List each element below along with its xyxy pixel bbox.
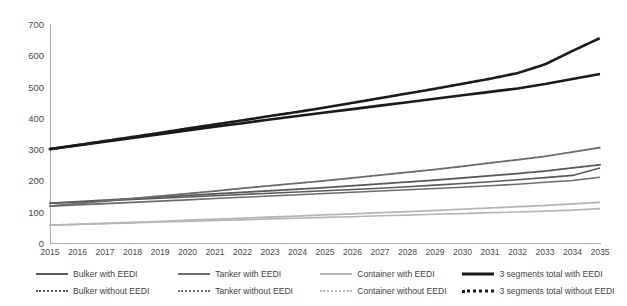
legend-swatch-icon	[178, 269, 210, 279]
x-tick-label: 2019	[150, 247, 169, 257]
legend-item[interactable]: Tanker with EEDI	[178, 266, 320, 281]
y-tick-label: 100	[8, 206, 44, 217]
x-axis-line	[50, 243, 601, 244]
legend-swatch-icon	[36, 269, 68, 279]
legend-item[interactable]: 3 segments total without EEDI	[462, 283, 616, 298]
plot-area	[50, 24, 600, 243]
chart-legend: Bulker with EEDITanker with EEDIContaine…	[36, 266, 616, 302]
legend-label: Bulker with EEDI	[73, 269, 137, 279]
x-tick-label: 2023	[260, 247, 279, 257]
y-tick-label: 200	[8, 175, 44, 186]
x-tick-label: 2031	[480, 247, 499, 257]
x-tick-label: 2027	[370, 247, 389, 257]
x-tick-label: 2026	[343, 247, 362, 257]
series-lines	[50, 24, 600, 243]
legend-item[interactable]: 3 segments total with EEDI	[462, 266, 616, 281]
series-line	[50, 202, 600, 225]
x-tick-label: 2029	[425, 247, 444, 257]
x-tick-label: 2024	[288, 247, 307, 257]
x-tick-label: 2032	[508, 247, 527, 257]
legend-swatch-icon	[320, 286, 352, 296]
legend-label: Tanker without EEDI	[215, 286, 293, 296]
legend-row: Bulker without EEDITanker without EEDICo…	[36, 283, 616, 298]
legend-label: 3 segments total with EEDI	[499, 269, 602, 279]
legend-label: Tanker with EEDI	[215, 269, 281, 279]
legend-label: Bulker without EEDI	[73, 286, 149, 296]
legend-label: 3 segments total without EEDI	[499, 286, 614, 296]
legend-item[interactable]: Tanker without EEDI	[178, 283, 320, 298]
legend-swatch-icon	[178, 286, 210, 296]
legend-item[interactable]: Bulker with EEDI	[36, 266, 178, 281]
legend-item[interactable]: Container without EEDI	[320, 283, 462, 298]
x-tick-label: 2016	[68, 247, 87, 257]
x-tick-label: 2015	[40, 247, 59, 257]
x-tick-label: 2033	[535, 247, 554, 257]
y-tick-label: 400	[8, 112, 44, 123]
legend-label: Container without EEDI	[357, 286, 446, 296]
x-tick-label: 2020	[178, 247, 197, 257]
legend-swatch-icon	[462, 286, 494, 296]
x-tick-label: 2028	[398, 247, 417, 257]
legend-row: Bulker with EEDITanker with EEDIContaine…	[36, 266, 616, 281]
x-axis-tick-labels: 2015201620172018201920202021202220232024…	[50, 246, 601, 262]
x-tick-label: 2017	[95, 247, 114, 257]
series-line	[50, 148, 600, 207]
y-axis-tick-labels: 0100200300400500600700	[8, 0, 44, 306]
x-tick-label: 2034	[563, 247, 582, 257]
legend-item[interactable]: Bulker without EEDI	[36, 283, 178, 298]
x-tick-label: 2021	[205, 247, 224, 257]
x-tick-label: 2025	[315, 247, 334, 257]
series-line	[50, 38, 600, 149]
x-tick-label: 2018	[123, 247, 142, 257]
line-chart: 0100200300400500600700 20152016201720182…	[0, 0, 627, 306]
y-tick-label: 0	[8, 238, 44, 249]
y-tick-label: 500	[8, 81, 44, 92]
y-tick-label: 700	[8, 19, 44, 30]
x-tick-label: 2022	[233, 247, 252, 257]
y-tick-label: 300	[8, 144, 44, 155]
legend-swatch-icon	[36, 286, 68, 296]
legend-item[interactable]: Container with EEDI	[320, 266, 462, 281]
y-tick-label: 600	[8, 50, 44, 61]
legend-label: Container with EEDI	[357, 269, 434, 279]
x-tick-label: 2030	[453, 247, 472, 257]
legend-swatch-icon	[320, 269, 352, 279]
legend-swatch-icon	[462, 269, 494, 279]
x-tick-label: 2035	[590, 247, 609, 257]
